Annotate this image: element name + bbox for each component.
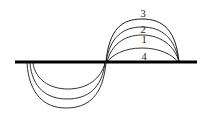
lower-arc-outer (27, 63, 106, 108)
curve-label-4: 4 (141, 52, 146, 63)
lower-arc-inner (33, 63, 105, 89)
diagram-canvas: 3 2 1 4 (0, 0, 205, 117)
lower-arc-group (27, 63, 106, 108)
curve-label-3: 3 (140, 9, 145, 20)
curve-label-1: 1 (141, 35, 146, 46)
curve-family-svg (0, 0, 205, 117)
